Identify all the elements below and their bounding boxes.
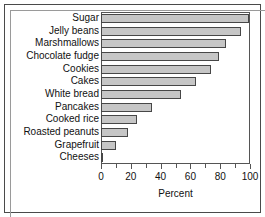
category-label: Cooked rice: [6, 114, 99, 124]
x-axis-tick-label: 80: [215, 171, 226, 182]
x-axis-minor-tick: [146, 164, 147, 168]
x-axis-minor-tick: [116, 164, 117, 168]
x-axis-minor-tick: [176, 164, 177, 168]
x-axis-minor-tick: [205, 164, 206, 168]
category-label: Roasted peanuts: [6, 127, 99, 137]
category-label: Cakes: [6, 76, 99, 86]
x-axis-tick-label: 40: [155, 171, 166, 182]
category-label: Chocolate fudge: [6, 51, 99, 61]
category-label: Pancakes: [6, 102, 99, 112]
x-axis-major-tick: [220, 164, 221, 169]
x-axis-tick-labels: 020406080100: [101, 171, 250, 184]
bar: [101, 103, 152, 112]
category-label: Jelly beans: [6, 26, 99, 36]
x-axis-major-tick: [101, 164, 102, 169]
x-axis-tick-label: 0: [98, 171, 104, 182]
bar: [101, 128, 128, 137]
category-label: White bread: [6, 89, 99, 99]
bar: [101, 141, 116, 150]
x-axis-tick-label: 20: [125, 171, 136, 182]
category-axis-labels: SugarJelly beansMarshmallowsChocolate fu…: [6, 12, 99, 164]
category-label: Cheeses: [6, 152, 99, 162]
x-axis-major-tick: [190, 164, 191, 169]
bar: [101, 27, 241, 36]
x-axis-tick-label: 100: [242, 171, 259, 182]
bar: [101, 77, 196, 86]
bar: [101, 52, 219, 61]
x-axis-title: Percent: [101, 188, 250, 200]
bar-chart-figure: SugarJelly beansMarshmallowsChocolate fu…: [0, 0, 265, 217]
bar: [101, 39, 226, 48]
x-axis-major-tick: [131, 164, 132, 169]
bar: [101, 90, 181, 99]
x-axis-major-tick: [250, 164, 251, 169]
x-axis-tick-label: 60: [185, 171, 196, 182]
category-label: Grapefruit: [6, 140, 99, 150]
bar: [101, 115, 137, 124]
bar: [101, 65, 211, 74]
x-axis-ticks: [101, 164, 250, 170]
x-axis-major-tick: [161, 164, 162, 169]
category-label: Cookies: [6, 64, 99, 74]
x-axis-minor-tick: [235, 164, 236, 168]
bar: [101, 153, 103, 162]
bar: [101, 14, 249, 23]
category-label: Sugar: [6, 13, 99, 23]
bar-series: [101, 12, 250, 164]
category-label: Marshmallows: [6, 38, 99, 48]
